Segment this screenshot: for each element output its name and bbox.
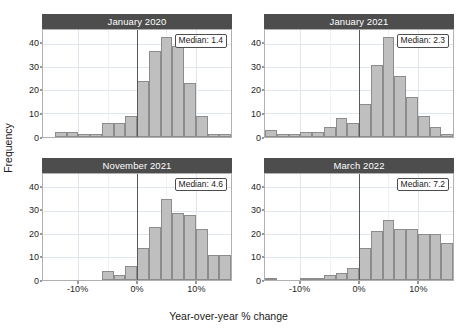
histogram-bar [67,132,79,137]
x-axis-title: Year-over-year % change [0,310,457,322]
y-axis-tick-label: 10 [29,109,39,119]
histogram-bar [300,132,312,137]
x-axis-tick-label: 10% [409,284,427,294]
histogram-bar [289,134,301,136]
histogram-bar [102,271,114,280]
histogram-bar [265,278,277,280]
median-annotation: Median: 1.4 [175,34,227,48]
histogram-bar [78,134,90,136]
histogram-bar [137,81,149,137]
histogram-bar [277,134,289,136]
histogram-bar [125,116,137,137]
histogram-bar [300,278,312,280]
x-axis-tick-label: -10% [67,284,88,294]
histogram-bar [149,227,161,280]
y-axis-tick-label: 30 [251,62,261,72]
y-axis: 010203040 [16,29,42,138]
panel-title-strip: November 2021 [42,158,232,173]
y-axis-tick-label: 10 [251,252,261,262]
histogram-bar [149,51,161,137]
histogram-bar [102,123,114,137]
histogram-bar [219,255,231,280]
vertical-gridline-minor [330,174,331,281]
panel-2: January 2021010203040Median: 2.3-10%0%10… [238,14,454,153]
histogram-bar [406,97,418,136]
y-axis: 010203040 [16,173,42,282]
histogram-bar [418,234,430,280]
histogram-bar [383,220,395,280]
histogram-bar [336,118,348,137]
y-axis-tick-label: 20 [251,229,261,239]
histogram-bar [208,255,220,280]
plot-area: Median: 2.3 [264,29,454,138]
median-annotation: Median: 7.2 [397,178,449,192]
y-axis-tick-label: 0 [34,276,39,286]
histogram-bar [324,275,336,280]
y-axis: 010203040 [238,173,264,282]
histogram-bar [161,199,173,280]
y-axis-tick-label: 40 [29,182,39,192]
histogram-bar [208,134,220,136]
histogram-bar [161,37,173,137]
vertical-gridline-minor [108,30,109,137]
histogram-bar [312,278,324,280]
histogram-bar [359,248,371,280]
x-axis: -10%0%10% [42,138,232,153]
x-axis-tick-label: 0% [352,284,365,294]
vertical-gridline-minor [108,174,109,281]
zero-reference-line [137,174,138,281]
x-axis-title-label: Year-over-year % change [169,310,288,322]
histogram-bar [430,127,442,136]
vertical-gridline [300,174,301,281]
zero-reference-line [359,30,360,137]
histogram-bar [196,229,208,280]
x-axis: -10%0%10% [42,281,232,296]
panel-title-label: March 2022 [333,160,384,171]
histogram-bar [359,104,371,136]
x-axis-tick-label: 0% [130,284,143,294]
y-axis-tick-label: 30 [251,205,261,215]
panel-title-strip: March 2022 [264,158,454,173]
vertical-gridline [78,30,79,137]
histogram-bar [90,134,102,136]
panel-3: November 2021010203040Median: 4.6-10%0%1… [16,158,232,297]
panel-4: March 2022010203040Median: 7.2-10%0%10% [238,158,454,297]
plot-area: Median: 1.4 [42,29,232,138]
histogram-bar [441,243,453,280]
histogram-bar [219,134,231,136]
histogram-bar [172,213,184,280]
y-axis-tick-label: 20 [29,229,39,239]
y-axis-tick-label: 40 [251,182,261,192]
zero-reference-line [359,174,360,281]
y-axis-title: Frequency [1,0,15,296]
panel-grid: January 2020010203040Median: 1.4-10%0%10… [16,14,454,296]
median-annotation: Median: 2.3 [397,34,449,48]
histogram-bar [125,266,137,280]
histogram-bar [347,268,359,280]
histogram-bar [114,275,126,280]
histogram-bar [196,116,208,137]
histogram-bar [371,65,383,137]
y-axis-tick-label: 0 [34,133,39,143]
y-axis: 010203040 [238,29,264,138]
y-axis-tick-label: 10 [251,109,261,119]
histogram-bar [184,215,196,280]
histogram-bar [418,116,430,137]
vertical-gridline-minor [330,30,331,137]
histogram-figure: Frequency January 2020010203040Median: 1… [0,0,457,329]
x-axis: -10%0%10% [264,138,454,153]
panel-title-strip: January 2020 [42,14,232,29]
x-axis: -10%0%10% [264,281,454,296]
zero-reference-line [137,30,138,137]
vertical-gridline [300,30,301,137]
histogram-bar [441,134,453,136]
y-axis-tick-label: 20 [29,85,39,95]
y-axis-tick-label: 40 [251,38,261,48]
histogram-bar [336,273,348,280]
y-axis-tick-label: 0 [256,276,261,286]
histogram-bar [184,83,196,136]
panel-title-label: November 2021 [103,160,172,171]
histogram-bar [312,132,324,137]
y-axis-tick-label: 30 [29,205,39,215]
histogram-bar [383,37,395,137]
